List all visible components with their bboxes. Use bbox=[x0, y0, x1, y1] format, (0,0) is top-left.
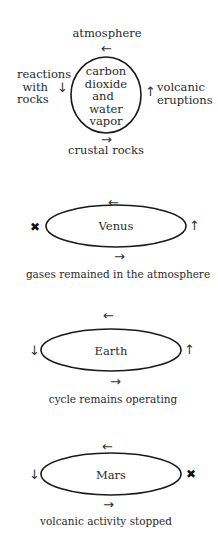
left-arrow-icon: ← bbox=[101, 42, 112, 55]
reactions-with-rocks-label: reactions with rocks bbox=[17, 68, 57, 106]
mars-blocked-cross-icon: ✖ bbox=[186, 468, 196, 480]
center-line: and bbox=[76, 90, 136, 103]
center-line: carbon bbox=[76, 65, 136, 78]
venus-right-arrow-icon: → bbox=[114, 250, 125, 263]
down-arrow-icon: ↓ bbox=[57, 81, 68, 94]
mars-caption: volcanic activity stopped bbox=[40, 515, 172, 527]
venus-up-arrow-icon: ↑ bbox=[189, 219, 200, 232]
mars-label: Mars bbox=[96, 469, 126, 481]
crustal-rocks-label: crustal rocks bbox=[68, 144, 144, 156]
label-line: rocks bbox=[17, 93, 57, 106]
cycle-center-text: carbon dioxide and water vapor bbox=[76, 65, 136, 128]
mars-left-arrow-icon: ← bbox=[102, 440, 113, 453]
earth-up-arrow-icon: ↑ bbox=[184, 343, 195, 356]
label-line: eruptions bbox=[157, 94, 213, 107]
volcanic-eruptions-label: volcanic eruptions bbox=[157, 81, 213, 106]
atmosphere-label: atmosphere bbox=[72, 27, 141, 39]
mars-down-arrow-icon: ↓ bbox=[29, 468, 40, 481]
earth-left-arrow-icon: ← bbox=[103, 309, 114, 322]
earth-right-arrow-icon: → bbox=[110, 375, 121, 388]
mars-right-arrow-icon: → bbox=[103, 498, 114, 511]
earth-caption: cycle remains operating bbox=[49, 393, 178, 405]
earth-label: Earth bbox=[95, 345, 128, 357]
venus-blocked-cross-icon: ✖ bbox=[30, 221, 40, 233]
venus-left-arrow-icon: ← bbox=[108, 196, 119, 209]
venus-caption: gases remained in the atmosphere bbox=[26, 268, 210, 280]
label-line: volcanic bbox=[157, 81, 213, 94]
center-line: vapor bbox=[76, 115, 136, 128]
earth-down-arrow-icon: ↓ bbox=[29, 344, 40, 357]
venus-label: Venus bbox=[99, 220, 134, 232]
label-line: reactions bbox=[17, 68, 57, 81]
up-arrow-icon: ↑ bbox=[145, 85, 156, 98]
